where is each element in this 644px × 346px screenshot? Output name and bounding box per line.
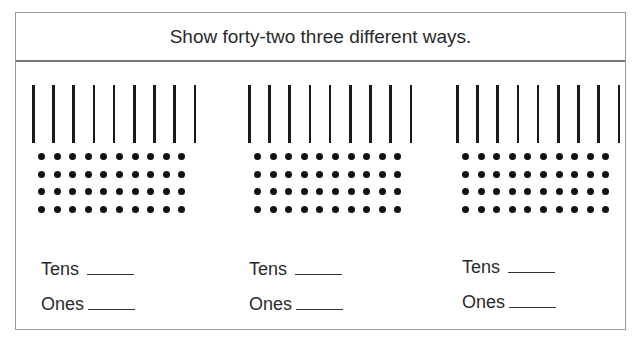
ones-dot [348, 206, 355, 213]
tens-rod [52, 85, 55, 143]
ones-blank[interactable] [509, 306, 556, 308]
ones-dot [254, 171, 261, 178]
ones-dot [163, 153, 170, 160]
ones-dot [348, 171, 355, 178]
tens-rod [309, 85, 312, 143]
tens-rod [288, 85, 291, 143]
ones-dot [69, 188, 76, 195]
ones-dot [69, 171, 76, 178]
ones-dot [332, 188, 339, 195]
ones-dot [270, 206, 277, 213]
tens-rod [517, 85, 520, 143]
ones-dot [178, 188, 185, 195]
ones-dot [394, 188, 401, 195]
tens-rod [72, 85, 75, 143]
ones-dot [54, 153, 61, 160]
ones-dot [254, 206, 261, 213]
ones-dot [571, 206, 578, 213]
tens-rod [537, 85, 540, 143]
ones-dot [478, 206, 485, 213]
ones-dot [163, 206, 170, 213]
ones-dot [348, 153, 355, 160]
ones-dot [587, 206, 594, 213]
ones-dot [38, 206, 45, 213]
tens-rod [597, 85, 600, 143]
ones-answer-3: Ones [462, 292, 556, 313]
ones-dot [462, 206, 469, 213]
ones-dot [147, 171, 154, 178]
ones-dot [332, 206, 339, 213]
tens-rod [153, 85, 156, 143]
tens-rod [329, 85, 332, 143]
ones-answer-1: Ones [41, 294, 135, 315]
tens-answer-3: Tens [462, 257, 555, 278]
ones-dot [540, 188, 547, 195]
tens-label: Tens [249, 259, 287, 280]
ones-dot [462, 171, 469, 178]
ones-dot [556, 171, 563, 178]
ones-dot [509, 153, 516, 160]
ones-dot [270, 153, 277, 160]
tens-blank[interactable] [508, 271, 555, 273]
ones-dot [493, 171, 500, 178]
ones-dot [85, 188, 92, 195]
ones-dot [394, 153, 401, 160]
ones-dot [587, 188, 594, 195]
tens-rod [113, 85, 116, 143]
tens-rod [133, 85, 136, 143]
ones-dot [132, 153, 139, 160]
tens-rod [618, 85, 621, 143]
ones-dot [285, 188, 292, 195]
ones-dot [379, 188, 386, 195]
ones-label: Ones [462, 292, 505, 313]
ones-dot [54, 206, 61, 213]
ones-dot [509, 206, 516, 213]
ones-dot [540, 153, 547, 160]
ones-dot [379, 206, 386, 213]
ones-dot [301, 153, 308, 160]
ones-dot [493, 206, 500, 213]
ones-dot [132, 206, 139, 213]
ones-dot [116, 171, 123, 178]
ones-dot [524, 153, 531, 160]
ones-dot [69, 153, 76, 160]
tens-rod [248, 85, 251, 143]
ones-dot [602, 171, 609, 178]
ones-dot [254, 188, 261, 195]
ones-dot [85, 153, 92, 160]
ones-answer-2: Ones [249, 294, 343, 315]
ones-dot [394, 171, 401, 178]
ones-dot [116, 188, 123, 195]
ones-dot [394, 206, 401, 213]
ones-dot [540, 171, 547, 178]
ones-dot [478, 171, 485, 178]
ones-dot [332, 153, 339, 160]
tens-answer-1: Tens [41, 259, 134, 280]
ones-dot [270, 188, 277, 195]
tens-rod [268, 85, 271, 143]
ones-dot [285, 153, 292, 160]
ones-dot [462, 153, 469, 160]
ones-dot [332, 171, 339, 178]
ones-dot [571, 188, 578, 195]
tens-rod [389, 85, 392, 143]
ones-dot [316, 153, 323, 160]
ones-label: Ones [41, 294, 84, 315]
ones-dot [116, 153, 123, 160]
ones-dot [363, 171, 370, 178]
ones-dot [478, 188, 485, 195]
ones-dot [163, 188, 170, 195]
ones-dot [301, 188, 308, 195]
ones-blank[interactable] [296, 308, 343, 310]
ones-dot [493, 188, 500, 195]
ones-dot [602, 153, 609, 160]
tens-label: Tens [462, 257, 500, 278]
ones-dot [316, 206, 323, 213]
tens-rod [349, 85, 352, 143]
ones-dot [301, 171, 308, 178]
tens-blank[interactable] [295, 273, 342, 275]
tens-blank[interactable] [87, 273, 134, 275]
tens-rod [577, 85, 580, 143]
ones-blank[interactable] [88, 308, 135, 310]
ones-dot [54, 188, 61, 195]
